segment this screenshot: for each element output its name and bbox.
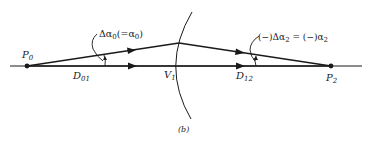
diagram-canvas: P0 D01 V1 D12 P2 Δα0(=α0) (−)Δα2 = (−)α2… <box>0 0 377 143</box>
incident-ray <box>27 43 179 66</box>
angle-arc-left-tip <box>103 56 107 60</box>
arrow-axial-left <box>128 63 137 70</box>
label-d01: D01 <box>72 70 90 83</box>
label-d12: D12 <box>235 70 253 83</box>
label-p2: P2 <box>325 72 338 85</box>
point-p2-dot <box>329 64 334 69</box>
arrow-incident <box>127 48 136 55</box>
point-p0-dot <box>25 64 30 69</box>
label-v1: V1 <box>164 69 176 82</box>
figure-caption: (b) <box>178 125 189 134</box>
label-p0: P0 <box>21 49 34 62</box>
label-angle-right: (−)Δα2 = (−)α2 <box>258 32 328 44</box>
arrow-axial-right <box>236 63 245 70</box>
label-angle-left: Δα0(=α0) <box>99 28 143 41</box>
optics-diagram: P0 D01 V1 D12 P2 Δα0(=α0) (−)Δα2 = (−)α2… <box>0 0 377 143</box>
arrow-refracted <box>235 49 245 56</box>
